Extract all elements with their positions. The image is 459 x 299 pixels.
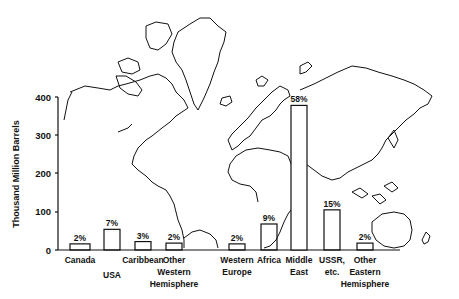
y-tick-label: 300	[35, 130, 51, 141]
category-label: Other	[354, 255, 377, 265]
category-label: etc.	[325, 267, 340, 277]
world-map-outline	[64, 18, 432, 248]
bar-percent-label: 58%	[290, 94, 307, 104]
category-label: Middle	[286, 255, 313, 265]
bar-percent-label: 2%	[231, 233, 244, 243]
category-label: Africa	[257, 255, 281, 265]
bar-group: 9%Africa	[257, 213, 281, 265]
oil-reserves-chart: 0100200300400 Thousand Million Barrels 2…	[0, 0, 459, 299]
category-label: USA	[103, 270, 121, 280]
category-label: Europe	[222, 267, 252, 277]
bar	[324, 210, 340, 250]
y-axis-label: Thousand Million Barrels	[11, 120, 21, 228]
bar-percent-label: 9%	[263, 213, 276, 223]
y-tick-label: 0	[46, 245, 51, 256]
bar-group: 7%USA	[103, 218, 121, 280]
chart-canvas: 0100200300400 Thousand Million Barrels 2…	[0, 0, 459, 299]
category-label: East	[290, 267, 308, 277]
iceland-outline	[220, 96, 232, 106]
bar-group: 2%WesternEurope	[220, 233, 253, 277]
category-label: Hemisphere	[150, 279, 199, 289]
bar	[291, 105, 307, 250]
bar-percent-label: 7%	[106, 218, 119, 228]
bar-percent-label: 2%	[74, 233, 87, 243]
category-label: Hemisphere	[341, 279, 390, 289]
south-america-outline	[184, 230, 218, 248]
category-label: USSR,	[319, 255, 345, 265]
y-tick-label: 200	[35, 168, 51, 179]
category-label: Eastern	[349, 267, 380, 277]
bar-group: 15%USSR,etc.	[319, 199, 345, 277]
category-label: Canada	[65, 255, 96, 265]
category-label: Other	[163, 255, 186, 265]
bar-percent-label: 2%	[359, 232, 372, 242]
australia-outline	[372, 212, 412, 248]
category-label: Western	[220, 255, 253, 265]
bar	[229, 244, 245, 250]
y-axis-ticks: 0100200300400	[35, 92, 51, 256]
bar-group: 2%Canada	[65, 233, 96, 265]
bar-percent-label: 15%	[323, 199, 340, 209]
bar-group: 2%OtherEasternHemisphere	[341, 232, 390, 289]
y-tick-label: 100	[35, 206, 51, 217]
north-america-outline	[64, 74, 188, 248]
y-tick-label: 400	[35, 92, 51, 103]
category-label: Western	[157, 267, 190, 277]
se-asia-islands-outline	[352, 182, 398, 204]
bar	[104, 229, 120, 250]
bar	[357, 243, 373, 250]
new-zealand-outline	[422, 232, 430, 244]
bar-percent-label: 3%	[137, 231, 150, 241]
asia-outline	[292, 66, 432, 180]
bar	[135, 242, 151, 250]
bar	[70, 244, 90, 250]
bars: 2%Canada7%USA3%Caribbean2%OtherWesternHe…	[65, 94, 390, 289]
bar-group: 3%Caribbean	[122, 231, 164, 265]
bar-percent-label: 2%	[168, 232, 181, 242]
bar	[166, 243, 182, 250]
category-label: Caribbean	[122, 255, 164, 265]
